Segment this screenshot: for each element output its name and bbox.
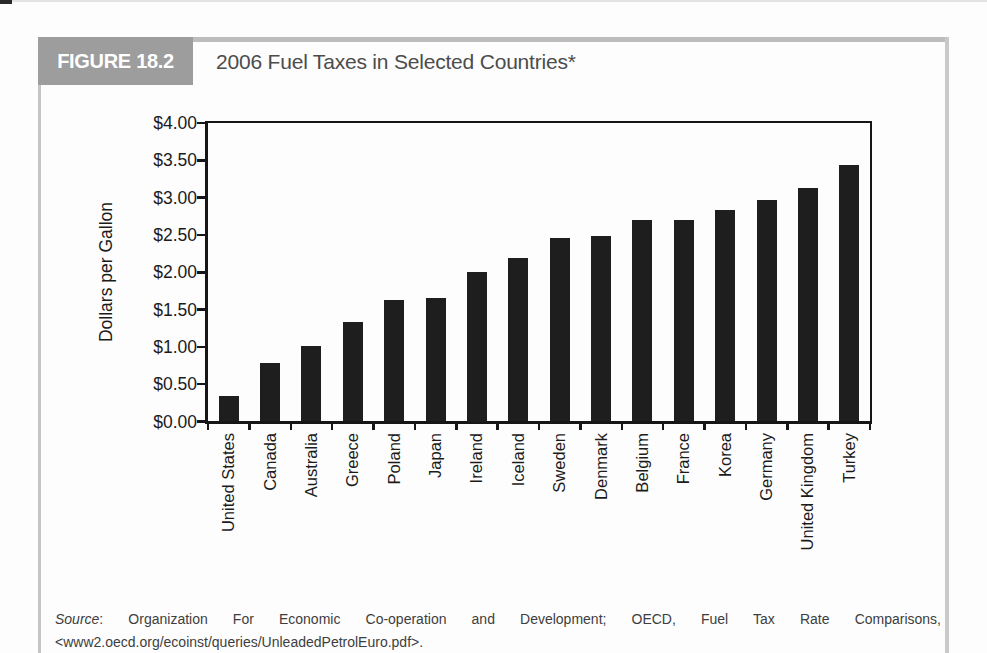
y-tick: [197, 234, 208, 237]
x-tick: [579, 424, 582, 430]
x-category-label-sweden: Sweden: [550, 433, 569, 583]
scanned-textbook-figure-page: FIGURE 18.2 2006 Fuel Taxes in Selected …: [0, 0, 987, 653]
y-tick: [197, 122, 208, 125]
source-url-line: <www2.oecd.org/ecoinst/queries/UnleadedP…: [55, 631, 941, 653]
source-text: : Organization For Economic Co-operation…: [99, 611, 941, 627]
x-category-label-ireland: Ireland: [467, 433, 486, 583]
y-tick-label: $1.50: [127, 299, 197, 321]
x-tick: [290, 424, 293, 430]
x-category-label-poland: Poland: [385, 433, 404, 583]
page-top-edge: [0, 0, 987, 2]
y-tick: [197, 159, 208, 162]
bar-belgium: [632, 220, 652, 421]
x-category-label-france: France: [674, 433, 693, 583]
bar-denmark: [591, 236, 611, 421]
bar-united-kingdom: [798, 188, 818, 422]
y-tick-label: $4.00: [127, 112, 197, 134]
x-category-label-belgium: Belgium: [633, 433, 652, 583]
x-category-label-denmark: Denmark: [592, 433, 611, 583]
x-category-label-united-kingdom: United Kingdom: [798, 433, 817, 583]
bar-poland: [384, 300, 404, 422]
y-tick: [197, 346, 208, 349]
bar-iceland: [508, 258, 528, 421]
x-category-label-australia: Australia: [302, 433, 321, 583]
y-tick-label: $0.00: [127, 411, 197, 433]
bar-australia: [301, 346, 321, 421]
x-category-label-greece: Greece: [343, 433, 362, 583]
x-tick: [662, 424, 665, 430]
y-tick: [197, 271, 208, 274]
y-tick-label: $0.50: [127, 373, 197, 395]
x-tick: [414, 424, 417, 430]
figure-title: 2006 Fuel Taxes in Selected Countries*: [216, 50, 576, 74]
bar-united-states: [219, 396, 239, 421]
y-tick-label: $3.50: [127, 149, 197, 171]
figure-number-tag: FIGURE 18.2: [38, 37, 193, 85]
x-tick: [331, 424, 334, 430]
x-tick: [869, 424, 872, 430]
x-tick: [786, 424, 789, 430]
source-label: Source: [55, 611, 99, 627]
x-tick: [703, 424, 706, 430]
y-tick-label: $2.50: [127, 224, 197, 246]
y-tick: [197, 196, 208, 199]
x-tick: [372, 424, 375, 430]
x-category-label-united-states: United States: [219, 433, 238, 583]
bar-greece: [343, 322, 363, 422]
x-tick: [827, 424, 830, 430]
bar-germany: [757, 200, 777, 422]
bar-turkey: [839, 165, 859, 422]
figure-box-right-border: [945, 37, 949, 653]
y-tick: [197, 383, 208, 386]
x-tick: [538, 424, 541, 430]
x-category-label-iceland: Iceland: [509, 433, 528, 583]
y-tick: [197, 308, 208, 311]
bar-canada: [260, 363, 280, 421]
y-tick-label: $1.00: [127, 336, 197, 358]
x-category-label-korea: Korea: [716, 433, 735, 583]
bar-sweden: [550, 238, 570, 422]
x-tick: [248, 424, 251, 430]
source-note-line1: Source: Organization For Economic Co-ope…: [55, 608, 941, 630]
x-tick: [207, 424, 210, 430]
bar-japan: [426, 298, 446, 422]
bar-ireland: [467, 272, 487, 421]
x-category-label-japan: Japan: [426, 433, 445, 583]
y-axis-title: Dollars per Gallon: [96, 172, 116, 372]
y-tick: [197, 420, 208, 423]
bar-france: [674, 220, 694, 421]
x-tick: [621, 424, 624, 430]
bar-korea: [715, 210, 735, 421]
x-category-label-turkey: Turkey: [840, 433, 859, 583]
x-tick: [496, 424, 499, 430]
figure-box-left-border: [38, 37, 41, 653]
x-tick: [455, 424, 458, 430]
y-tick-label: $3.00: [127, 187, 197, 209]
y-tick-label: $2.00: [127, 261, 197, 283]
x-category-label-germany: Germany: [757, 433, 776, 583]
scan-artifact-dash: [0, 0, 12, 4]
x-tick: [745, 424, 748, 430]
x-category-label-canada: Canada: [261, 433, 280, 583]
